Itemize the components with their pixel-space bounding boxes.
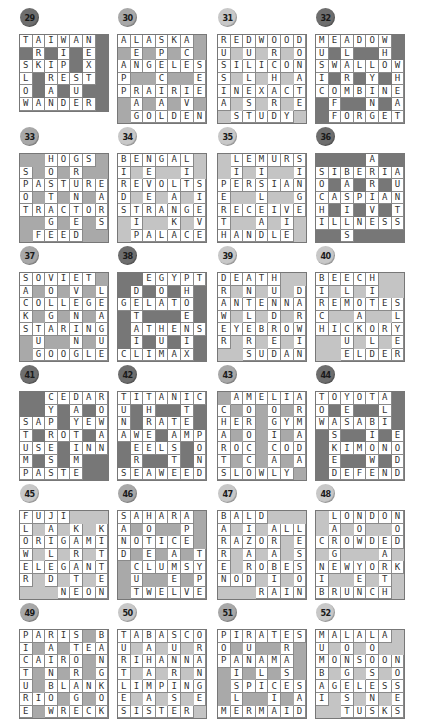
letter-cell[interactable]: P: [181, 273, 194, 286]
letter-cell[interactable]: I: [341, 442, 354, 455]
letter-cell[interactable]: S: [194, 179, 207, 192]
letter-cell[interactable]: H: [366, 273, 379, 286]
letter-cell[interactable]: X: [181, 349, 194, 362]
letter-cell[interactable]: R: [316, 298, 329, 311]
letter-cell[interactable]: T: [33, 323, 46, 336]
letter-cell[interactable]: E: [194, 85, 207, 98]
letter-cell[interactable]: T: [392, 111, 405, 124]
letter-cell[interactable]: E: [294, 98, 307, 111]
letter-cell[interactable]: E: [131, 154, 144, 167]
letter-cell[interactable]: L: [143, 561, 156, 574]
letter-cell[interactable]: T: [268, 630, 281, 643]
letter-cell[interactable]: T: [58, 468, 71, 481]
letter-cell[interactable]: A: [143, 230, 156, 243]
letter-cell[interactable]: A: [243, 273, 256, 286]
letter-cell[interactable]: E: [143, 192, 156, 205]
letter-cell[interactable]: L: [118, 680, 131, 693]
letter-cell[interactable]: U: [118, 405, 131, 418]
letter-cell[interactable]: L: [143, 298, 156, 311]
letter-cell[interactable]: K: [354, 323, 367, 336]
letter-cell[interactable]: N: [70, 311, 83, 324]
letter-cell[interactable]: A: [194, 655, 207, 668]
letter-cell[interactable]: A: [156, 630, 169, 643]
letter-cell[interactable]: S: [256, 179, 269, 192]
letter-cell[interactable]: W: [156, 468, 169, 481]
letter-cell[interactable]: T: [70, 430, 83, 443]
letter-cell[interactable]: A: [268, 455, 281, 468]
letter-cell[interactable]: G: [58, 561, 71, 574]
letter-cell[interactable]: H: [268, 73, 281, 86]
letter-cell[interactable]: C: [341, 323, 354, 336]
letter-cell[interactable]: S: [118, 204, 131, 217]
letter-cell[interactable]: M: [156, 349, 169, 362]
letter-cell[interactable]: R: [256, 587, 269, 600]
letter-cell[interactable]: T: [131, 311, 144, 324]
letter-cell[interactable]: M: [294, 417, 307, 430]
letter-cell[interactable]: E: [96, 349, 109, 362]
letter-cell[interactable]: G: [194, 680, 207, 693]
letter-cell[interactable]: I: [131, 655, 144, 668]
letter-cell[interactable]: A: [181, 511, 194, 524]
letter-cell[interactable]: M: [143, 680, 156, 693]
letter-cell[interactable]: G: [294, 192, 307, 205]
letter-cell[interactable]: I: [194, 192, 207, 205]
letter-cell[interactable]: E: [194, 73, 207, 86]
letter-cell[interactable]: N: [294, 179, 307, 192]
letter-cell[interactable]: L: [341, 630, 354, 643]
letter-cell[interactable]: T: [118, 668, 131, 681]
letter-cell[interactable]: L: [20, 524, 33, 537]
letter-cell[interactable]: I: [181, 336, 194, 349]
letter-cell[interactable]: W: [366, 455, 379, 468]
letter-cell[interactable]: M: [256, 706, 269, 719]
letter-cell[interactable]: U: [168, 643, 181, 656]
letter-cell[interactable]: O: [329, 392, 342, 405]
letter-cell[interactable]: A: [256, 630, 269, 643]
letter-cell[interactable]: Y: [354, 561, 367, 574]
letter-cell[interactable]: D: [392, 468, 405, 481]
letter-cell[interactable]: E: [366, 217, 379, 230]
letter-cell[interactable]: A: [143, 85, 156, 98]
letter-cell[interactable]: E: [329, 273, 342, 286]
letter-cell[interactable]: L: [268, 468, 281, 481]
letter-cell[interactable]: A: [33, 98, 46, 111]
letter-cell[interactable]: A: [143, 468, 156, 481]
letter-cell[interactable]: L: [354, 680, 367, 693]
letter-cell[interactable]: N: [83, 680, 96, 693]
letter-cell[interactable]: C: [354, 273, 367, 286]
letter-cell[interactable]: G: [58, 536, 71, 549]
letter-cell[interactable]: I: [58, 48, 71, 61]
letter-cell[interactable]: I: [316, 693, 329, 706]
letter-cell[interactable]: R: [83, 98, 96, 111]
letter-cell[interactable]: E: [354, 574, 367, 587]
letter-cell[interactable]: G: [156, 273, 169, 286]
letter-cell[interactable]: A: [131, 98, 144, 111]
letter-cell[interactable]: O: [341, 643, 354, 656]
letter-cell[interactable]: R: [218, 204, 231, 217]
letter-cell[interactable]: O: [366, 643, 379, 656]
letter-cell[interactable]: L: [156, 111, 169, 124]
letter-cell[interactable]: R: [243, 417, 256, 430]
letter-cell[interactable]: O: [181, 298, 194, 311]
letter-cell[interactable]: C: [316, 536, 329, 549]
letter-cell[interactable]: D: [354, 35, 367, 48]
letter-cell[interactable]: A: [281, 179, 294, 192]
letter-cell[interactable]: Y: [194, 561, 207, 574]
letter-cell[interactable]: A: [156, 511, 169, 524]
letter-cell[interactable]: I: [168, 680, 181, 693]
letter-cell[interactable]: N: [58, 587, 71, 600]
letter-cell[interactable]: R: [341, 73, 354, 86]
letter-cell[interactable]: S: [316, 60, 329, 73]
letter-cell[interactable]: O: [366, 442, 379, 455]
letter-cell[interactable]: S: [70, 630, 83, 643]
letter-cell[interactable]: P: [354, 192, 367, 205]
letter-cell[interactable]: W: [58, 35, 71, 48]
letter-cell[interactable]: E: [329, 455, 342, 468]
letter-cell[interactable]: E: [379, 536, 392, 549]
letter-cell[interactable]: I: [316, 574, 329, 587]
letter-cell[interactable]: A: [218, 98, 231, 111]
letter-cell[interactable]: A: [341, 35, 354, 48]
letter-cell[interactable]: O: [341, 511, 354, 524]
letter-cell[interactable]: G: [341, 668, 354, 681]
letter-cell[interactable]: A: [218, 430, 231, 443]
letter-cell[interactable]: E: [281, 230, 294, 243]
